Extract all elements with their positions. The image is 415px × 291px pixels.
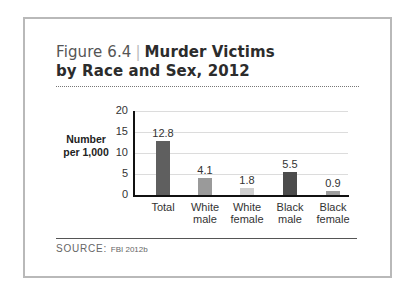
- title-line-2: by Race and Sex, 2012: [56, 62, 250, 80]
- value-label-white-female: 1.8: [232, 174, 262, 186]
- bar-white-male: [198, 178, 212, 195]
- x-label-black-male: Black male: [267, 201, 313, 225]
- x-label-white-female-line-2: female: [230, 213, 263, 225]
- source-note: SOURCE: FBI 2012b: [56, 243, 148, 254]
- x-label-black-male-line-1: Black: [277, 201, 304, 213]
- value-label-black-female: 0.9: [318, 177, 348, 189]
- title-separator: |: [131, 43, 144, 61]
- title-line-1: Murder Victims: [145, 43, 275, 61]
- y-tick-10: 10: [106, 146, 128, 158]
- title-divider: [56, 86, 359, 87]
- y-axis-label: Number per 1,000: [60, 133, 112, 159]
- y-axis-line: [133, 111, 135, 197]
- y-axis-label-line-1: Number: [66, 133, 106, 145]
- y-tick-5: 5: [106, 167, 128, 179]
- y-tick-0: 0: [106, 188, 128, 200]
- source-divider: [56, 238, 357, 239]
- x-label-black-female: Black female: [310, 201, 356, 225]
- value-label-white-male: 4.1: [190, 164, 220, 176]
- figure-number: Figure 6.4: [56, 43, 131, 61]
- bar-total: [156, 141, 170, 195]
- x-axis-line: [133, 195, 349, 197]
- y-axis-label-line-2: per 1,000: [63, 146, 109, 158]
- x-label-white-female: White female: [224, 201, 270, 225]
- value-label-black-male: 5.5: [275, 158, 305, 170]
- x-label-total: Total: [140, 201, 186, 213]
- x-label-black-female-line-1: Black: [320, 201, 347, 213]
- source-label: SOURCE:: [56, 243, 107, 254]
- x-label-black-male-line-2: male: [278, 213, 302, 225]
- x-label-black-female-line-2: female: [316, 213, 349, 225]
- gridline-20: [135, 111, 348, 112]
- x-label-white-female-line-1: White: [233, 201, 261, 213]
- y-tick-15: 15: [106, 125, 128, 137]
- value-label-total: 12.8: [148, 127, 178, 139]
- source-value: FBI 2012b: [111, 245, 148, 254]
- bar-black-male: [283, 172, 297, 195]
- x-label-white-male-line-2: male: [193, 213, 217, 225]
- x-label-total-line-1: Total: [151, 201, 174, 213]
- bar-white-female: [240, 188, 254, 195]
- x-label-white-male: White male: [182, 201, 228, 225]
- x-label-white-male-line-1: White: [191, 201, 219, 213]
- figure-title: Figure 6.4|Murder Victims by Race and Se…: [56, 43, 275, 81]
- y-tick-20: 20: [106, 104, 128, 116]
